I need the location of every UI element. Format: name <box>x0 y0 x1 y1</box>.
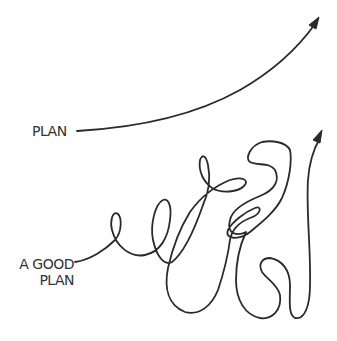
plan-path <box>77 24 315 131</box>
plan-arrowhead-icon <box>309 17 319 29</box>
good-plan-path <box>75 138 320 318</box>
plan-label: PLAN <box>32 123 67 139</box>
good-plan-label-line1: A GOOD <box>14 256 74 272</box>
good-plan-arrowhead-icon <box>313 130 322 143</box>
diagram-canvas <box>0 0 337 341</box>
good-plan-label-line2: PLAN <box>14 272 74 288</box>
good-plan-label: A GOOD PLAN <box>14 256 74 288</box>
